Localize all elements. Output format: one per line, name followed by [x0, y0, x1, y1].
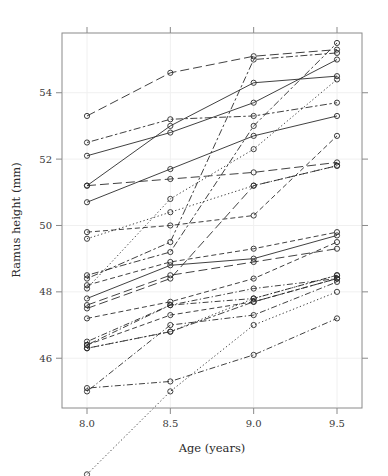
series-line: [87, 136, 337, 232]
series-subject-8: [84, 133, 339, 234]
series-subject-18: [84, 276, 339, 351]
series-subject-6: [84, 100, 339, 145]
y-tick-label: 48: [39, 286, 52, 297]
x-axis-ticks: 8.08.59.09.5: [79, 27, 345, 429]
gridlines: [63, 34, 361, 407]
axes-frame: [62, 33, 362, 408]
series-line: [87, 60, 337, 156]
series-subject-2: [84, 276, 339, 348]
series-line: [87, 279, 337, 345]
series-subject-17: [84, 47, 339, 119]
series-subject-13: [84, 57, 339, 158]
series-line: [87, 50, 337, 116]
y-tick-label: 46: [39, 353, 52, 364]
series-line: [87, 53, 337, 279]
ramus-growth-chart: 8.08.59.09.5 4648505254 Age (years) Ramu…: [0, 0, 388, 476]
plot-frame: [62, 33, 362, 408]
series-line: [87, 103, 337, 143]
series-line: [87, 232, 337, 285]
y-axis-title: Ramus height (mm): [9, 162, 23, 277]
chart-canvas: 8.08.59.09.5 4648505254 Age (years) Ramu…: [0, 0, 388, 476]
series-subject-9: [84, 77, 339, 291]
series-subject-4: [84, 316, 339, 391]
x-tick-label: 8.5: [162, 418, 178, 429]
data-series-layer: [84, 40, 339, 476]
x-tick-label: 8.0: [79, 418, 95, 429]
series-line: [87, 275, 337, 345]
series-line: [87, 242, 337, 318]
series-line: [87, 318, 337, 388]
x-axis-title: Age (years): [178, 441, 246, 455]
x-tick-label: 9.5: [329, 418, 345, 429]
series-subject-24: [84, 50, 339, 281]
series-line: [87, 166, 337, 239]
series-line: [87, 279, 337, 342]
y-tick-label: 50: [39, 220, 52, 231]
series-line: [87, 275, 337, 348]
series-line: [87, 79, 337, 288]
series-line: [87, 282, 337, 392]
y-tick-label: 54: [39, 87, 52, 98]
series-subject-7: [84, 74, 339, 189]
series-subject-14: [84, 230, 339, 288]
series-subject-1: [84, 233, 339, 301]
y-tick-label: 52: [39, 154, 52, 165]
x-tick-label: 9.0: [246, 418, 262, 429]
